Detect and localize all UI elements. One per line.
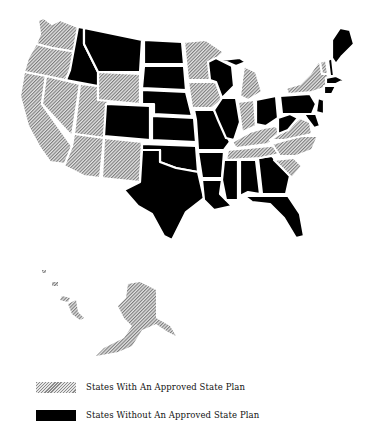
state-wy — [98, 72, 140, 104]
state-fl — [244, 196, 304, 238]
legend-item-approved: States With An Approved State Plan — [36, 378, 259, 396]
map-legend: States With An Approved State Plan State… — [36, 378, 259, 428]
state-ar — [198, 152, 224, 178]
state-me — [332, 28, 354, 64]
solid-swatch-icon — [36, 410, 76, 421]
state-in — [238, 100, 256, 132]
state-az — [64, 134, 104, 178]
legend-label-approved: States With An Approved State Plan — [86, 382, 245, 392]
legend-item-not-approved: States Without An Approved State Plan — [36, 406, 259, 424]
state-sd — [142, 66, 186, 90]
hatched-swatch-icon — [36, 382, 76, 393]
state-ct-ri — [324, 86, 336, 94]
state-nm — [102, 138, 142, 182]
state-oh — [256, 96, 278, 126]
state-mi — [240, 66, 262, 100]
legend-label-not-approved: States Without An Approved State Plan — [86, 410, 259, 420]
state-ks — [152, 116, 196, 142]
state-ak-islands — [42, 270, 84, 320]
state-co — [104, 104, 150, 140]
us-state-plan-map — [0, 0, 383, 428]
state-ma — [326, 76, 344, 84]
state-nd — [144, 40, 184, 64]
state-pa — [280, 94, 316, 114]
state-al — [240, 160, 260, 196]
state-nj — [316, 98, 324, 114]
state-vt — [320, 60, 328, 74]
state-ak — [96, 282, 176, 356]
state-ms — [222, 160, 238, 200]
